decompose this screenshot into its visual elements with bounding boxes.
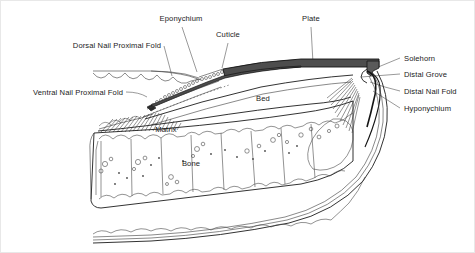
label-bone: Bone [182, 159, 200, 168]
label-hyponychium: Hyponychium [404, 104, 451, 113]
label-matrix: Matrix [155, 125, 176, 134]
diagram-canvas: Eponychium Cuticle Plate Dorsal Nail Pro… [1, 1, 475, 253]
label-eponychium: Eponychium [160, 14, 203, 23]
label-cuticle: Cuticle [216, 30, 240, 39]
label-distal-nail-fold: Distal Nail Fold [404, 87, 457, 96]
label-ventral-nail-proximal-fold: Ventral Nail Proximal Fold [33, 88, 123, 97]
anatomy-diagram: Eponychium Cuticle Plate Dorsal Nail Pro… [0, 0, 475, 253]
label-plate: Plate [302, 14, 320, 23]
label-solehorn: Solehorn [404, 54, 435, 63]
label-distal-grove: Distal Grove [404, 70, 447, 79]
label-bed: Bed [256, 94, 270, 103]
label-dorsal-nail-proximal-fold: Dorsal Nail Proximal Fold [73, 41, 161, 50]
